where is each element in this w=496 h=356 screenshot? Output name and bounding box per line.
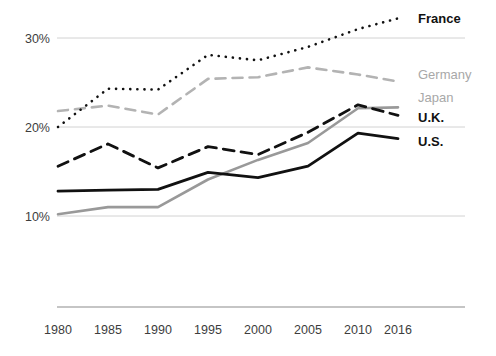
line-chart: 30% 20% 10% 1980 1985 1990 1995 2000 200… bbox=[0, 0, 496, 356]
legend-label-uk: U.K. bbox=[418, 110, 444, 125]
series-line-uk bbox=[58, 105, 398, 168]
x-tick-label-1995: 1995 bbox=[194, 323, 222, 337]
series-line-us bbox=[58, 133, 398, 191]
y-axis-tick-labels: 30% 20% 10% bbox=[25, 32, 50, 224]
series-layer bbox=[58, 18, 398, 214]
legend: France Germany Japan U.K. U.S. bbox=[418, 11, 472, 149]
x-tick-label-1980: 1980 bbox=[44, 323, 72, 337]
chart-container: 30% 20% 10% 1980 1985 1990 1995 2000 200… bbox=[0, 0, 496, 356]
series-line-japan bbox=[58, 107, 398, 214]
x-tick-label-2010: 2010 bbox=[344, 323, 372, 337]
x-tick-label-2016: 2016 bbox=[384, 323, 412, 337]
x-tick-label-2005: 2005 bbox=[294, 323, 322, 337]
y-tick-label-20: 20% bbox=[25, 121, 50, 135]
x-tick-label-2000: 2000 bbox=[244, 323, 272, 337]
legend-label-us: U.S. bbox=[418, 134, 443, 149]
x-tick-label-1985: 1985 bbox=[94, 323, 122, 337]
legend-label-japan: Japan bbox=[418, 90, 453, 105]
x-axis-tick-labels: 1980 1985 1990 1995 2000 2005 2010 2016 bbox=[44, 323, 412, 337]
legend-label-france: France bbox=[418, 11, 461, 26]
x-tick-label-1990: 1990 bbox=[144, 323, 172, 337]
y-tick-label-30: 30% bbox=[25, 32, 50, 46]
legend-label-germany: Germany bbox=[418, 67, 472, 82]
y-tick-label-10: 10% bbox=[25, 210, 50, 224]
series-line-germany bbox=[58, 67, 398, 114]
